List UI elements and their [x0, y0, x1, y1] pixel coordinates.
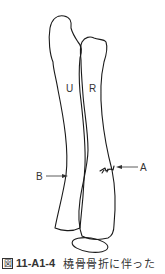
bone-fragment [71, 236, 109, 255]
label-b: B [36, 171, 43, 182]
figure-number: 11-A1-4 [16, 257, 55, 269]
figure-caption: 図 11-A1-4 橈骨骨折に伴った [2, 255, 165, 271]
arrow-a [116, 165, 138, 169]
forearm-bone-diagram: U R A B [0, 0, 165, 274]
label-a: A [140, 162, 147, 173]
label-ulna: U [66, 83, 73, 94]
label-radius: R [89, 83, 96, 94]
figure-caption-text: 橈骨骨折に伴った [63, 255, 155, 271]
figure-icon: 図 [2, 258, 13, 269]
arrow-b [46, 174, 68, 178]
